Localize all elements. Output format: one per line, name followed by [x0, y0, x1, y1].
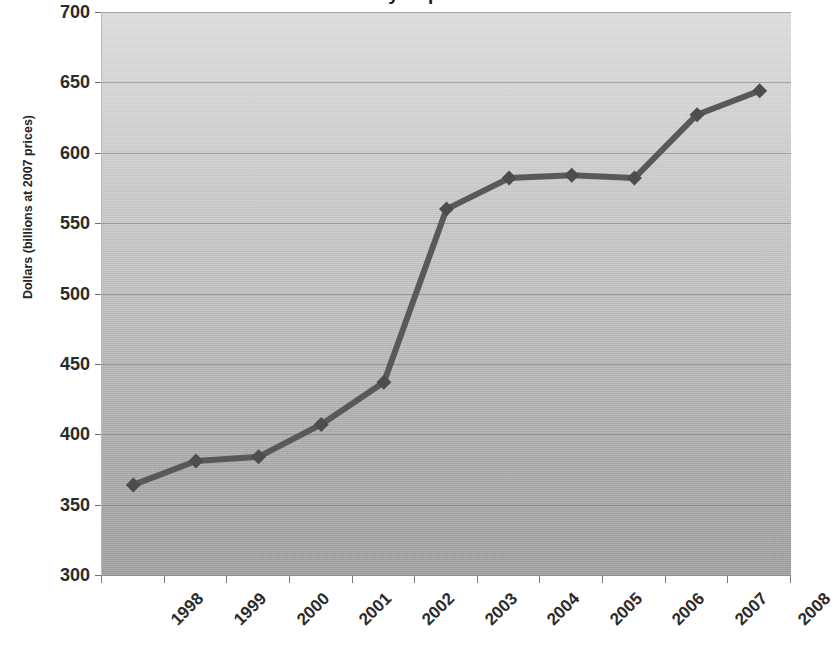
data-point-marker — [126, 477, 141, 492]
y-axis-tick-mark — [95, 294, 101, 295]
x-axis-tick-mark — [539, 576, 540, 583]
y-axis-tick-mark — [95, 364, 101, 365]
x-axis-tick-mark — [226, 576, 227, 583]
x-axis-tick-mark — [602, 576, 603, 583]
x-axis-tick-mark — [477, 576, 478, 583]
y-axis-tick-label: 450 — [32, 353, 90, 374]
x-axis-tick-label: 2008 — [794, 589, 835, 630]
y-axis-tick-label: 300 — [32, 565, 90, 586]
y-axis-tick-mark — [95, 12, 101, 13]
series-line-exports — [102, 12, 791, 575]
x-axis-tick-label: 2007 — [731, 589, 772, 630]
x-axis-tick-label: 1999 — [230, 589, 271, 630]
y-axis-tick-label: 550 — [32, 213, 90, 234]
y-axis-tick-mark — [95, 434, 101, 435]
y-axis-tick-label: 700 — [32, 2, 90, 23]
x-axis-tick-mark — [790, 576, 791, 583]
x-axis-tick-label: 2005 — [606, 589, 647, 630]
y-axis-title: Dollars (billions at 2007 prices) — [21, 47, 35, 367]
data-point-marker — [752, 83, 767, 98]
y-axis-tick-mark — [95, 82, 101, 83]
data-point-marker — [188, 453, 203, 468]
x-axis-tick-mark — [414, 576, 415, 583]
x-axis-tick-mark — [289, 576, 290, 583]
y-axis-tick-label: 400 — [32, 424, 90, 445]
x-axis-tick-mark — [101, 576, 102, 583]
series-polyline — [133, 91, 759, 485]
chart-title: Canadian Industry Exports at 2007 Prices… — [100, 0, 790, 4]
x-axis-tick-mark — [665, 576, 666, 583]
x-axis-tick-label: 2006 — [668, 589, 709, 630]
y-axis-tick-mark — [95, 505, 101, 506]
x-axis-tick-mark — [727, 576, 728, 583]
y-axis-tick-mark — [95, 223, 101, 224]
x-axis-tick-label: 1998 — [167, 589, 208, 630]
x-axis-tick-mark — [164, 576, 165, 583]
x-axis-tick-label: 2003 — [481, 589, 522, 630]
x-axis-tick-mark — [352, 576, 353, 583]
y-axis-tick-label: 650 — [32, 72, 90, 93]
x-axis-tick-label: 2002 — [418, 589, 459, 630]
x-axis-tick-label: 2001 — [355, 589, 396, 630]
x-axis-tick-label: 2004 — [543, 589, 584, 630]
y-axis-tick-label: 500 — [32, 283, 90, 304]
x-axis-tick-label: 2000 — [293, 589, 334, 630]
plot-area — [101, 12, 791, 576]
data-point-marker — [564, 168, 579, 183]
y-axis-tick-mark — [95, 153, 101, 154]
y-axis-tick-label: 600 — [32, 142, 90, 163]
y-axis-tick-label: 350 — [32, 494, 90, 515]
